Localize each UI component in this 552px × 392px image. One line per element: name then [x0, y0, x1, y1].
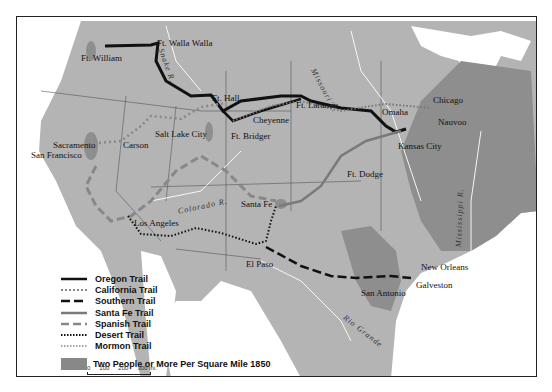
legend-item-mormon: Mormon Trail [61, 341, 270, 352]
legend: Oregon Trail California Trail Southern T… [61, 273, 270, 371]
place-label: Chicago [433, 96, 463, 105]
place-label: Salt Lake City [155, 130, 207, 139]
place-label: Ft. Bridger [231, 132, 271, 141]
place-label: San Antonio [361, 289, 406, 298]
place-label: Nauvoo [438, 118, 467, 127]
place-label: Ft. Hall [212, 94, 240, 103]
place-label: Los Angeles [134, 219, 179, 228]
legend-item-spanish: Spanish Trail [61, 318, 270, 329]
legend-item-santa-fe: Santa Fe Trail [61, 307, 270, 318]
place-label: Omaha [382, 108, 408, 117]
legend-item-california: California Trail [61, 284, 270, 295]
place-label: Galveston [416, 281, 453, 290]
legend-item-southern: Southern Trail [61, 296, 270, 307]
map-frame: Ft. William Ft. Walla Walla Ft. Hall Sal… [16, 16, 537, 377]
place-label: Cheyenne [253, 116, 289, 125]
place-label: Kansas City [398, 142, 442, 151]
legend-item-desert: Desert Trail [61, 329, 270, 340]
place-label: Ft. Walla Walla [157, 39, 212, 48]
place-label: Sacramento [53, 141, 95, 150]
place-label: Ft. William [81, 54, 122, 63]
legend-item-oregon: Oregon Trail [61, 273, 270, 284]
place-label: El Paso [246, 260, 273, 269]
place-label: Carson [123, 141, 149, 150]
scale-bar: 0 100 200 300 mi. [87, 365, 157, 375]
place-label: Santa Fe [241, 200, 272, 209]
density-swatch [61, 358, 87, 370]
place-label: Ft. Dodge [347, 170, 383, 179]
place-label: New Orleans [421, 263, 468, 272]
place-label: San Francisco [31, 151, 82, 160]
